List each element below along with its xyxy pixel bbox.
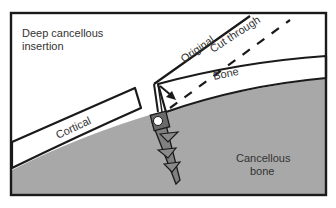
title-line1: Deep cancellous <box>22 27 104 39</box>
screw-head-hole <box>154 117 163 126</box>
label-cancellous-line2: bone <box>250 165 274 177</box>
label-cut-through: Cut through <box>208 13 263 54</box>
bone-screw-diagram: Deep cancellous insertion Original Cut t… <box>0 0 336 208</box>
label-cancellous-line1: Cancellous <box>236 152 291 164</box>
title-line2: insertion <box>22 40 64 52</box>
flap-cut-line <box>154 84 158 112</box>
